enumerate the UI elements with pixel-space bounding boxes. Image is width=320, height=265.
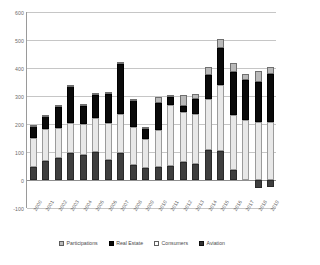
bar-segment-aviation[interactable] xyxy=(167,166,174,180)
bar-segment-real-estate[interactable] xyxy=(92,95,99,118)
bar-segment-real-estate[interactable] xyxy=(255,82,262,121)
bar-segment-aviation[interactable] xyxy=(30,167,37,180)
bar-column[interactable] xyxy=(255,12,262,208)
bar-segment-real-estate[interactable] xyxy=(80,106,87,125)
bar-segment-real-estate[interactable] xyxy=(167,97,174,105)
bar-column[interactable] xyxy=(267,12,274,208)
bar-column[interactable] xyxy=(142,12,149,208)
bar-column[interactable] xyxy=(55,12,62,208)
bar-segment-consumers[interactable] xyxy=(255,122,262,180)
bar-segment-aviation[interactable] xyxy=(42,161,49,180)
bar-segment-consumers[interactable] xyxy=(67,123,74,153)
bar-segment-consumers[interactable] xyxy=(167,105,174,166)
bar-segment-aviation[interactable] xyxy=(80,155,87,180)
bar-segment-real-estate[interactable] xyxy=(67,86,74,123)
bar-segment-aviation[interactable] xyxy=(255,180,262,188)
bar-segment-consumers[interactable] xyxy=(230,115,237,170)
bar-segment-aviation[interactable] xyxy=(155,167,162,180)
bar-segment-participations[interactable] xyxy=(130,99,137,101)
bar-column[interactable] xyxy=(67,12,74,208)
bar-segment-consumers[interactable] xyxy=(30,138,37,167)
bar-segment-participations[interactable] xyxy=(105,92,112,94)
bar-segment-consumers[interactable] xyxy=(205,99,212,150)
bar-segment-participations[interactable] xyxy=(142,127,149,129)
legend-item[interactable]: Participations xyxy=(59,240,98,246)
bar-segment-aviation[interactable] xyxy=(92,152,99,180)
bar-segment-participations[interactable] xyxy=(167,95,174,97)
bar-segment-consumers[interactable] xyxy=(192,114,199,164)
bar-segment-consumers[interactable] xyxy=(242,120,249,180)
bar-segment-participations[interactable] xyxy=(255,71,262,83)
bar-segment-participations[interactable] xyxy=(42,115,49,117)
bar-segment-participations[interactable] xyxy=(117,62,124,64)
bar-segment-participations[interactable] xyxy=(242,74,249,80)
bar-segment-aviation[interactable] xyxy=(192,164,199,180)
bar-segment-participations[interactable] xyxy=(217,39,224,48)
bar-segment-participations[interactable] xyxy=(155,97,162,103)
bar-segment-real-estate[interactable] xyxy=(205,75,212,98)
bar-segment-real-estate[interactable] xyxy=(30,126,37,138)
bar-column[interactable] xyxy=(42,12,49,208)
bar-column[interactable] xyxy=(167,12,174,208)
legend-item[interactable]: Aviation xyxy=(199,240,225,246)
bar-segment-aviation[interactable] xyxy=(67,153,74,180)
legend-item[interactable]: Consumers xyxy=(154,240,188,246)
bar-segment-real-estate[interactable] xyxy=(267,74,274,122)
bar-segment-participations[interactable] xyxy=(192,94,199,99)
bar-segment-consumers[interactable] xyxy=(180,112,187,162)
bar-segment-participations[interactable] xyxy=(55,105,62,107)
bar-segment-participations[interactable] xyxy=(267,67,274,74)
bar-segment-consumers[interactable] xyxy=(217,85,224,151)
bar-column[interactable] xyxy=(242,12,249,208)
bar-segment-real-estate[interactable] xyxy=(192,99,199,114)
bar-column[interactable] xyxy=(92,12,99,208)
bar-segment-participations[interactable] xyxy=(180,95,187,105)
bar-segment-real-estate[interactable] xyxy=(42,116,49,129)
bar-segment-real-estate[interactable] xyxy=(242,80,249,119)
bar-segment-real-estate[interactable] xyxy=(105,94,112,123)
bar-column[interactable] xyxy=(155,12,162,208)
bar-segment-aviation[interactable] xyxy=(130,165,137,180)
bar-segment-aviation[interactable] xyxy=(55,158,62,180)
bar-segment-consumers[interactable] xyxy=(117,114,124,153)
legend-item[interactable]: Real Estate xyxy=(109,240,143,246)
bar-column[interactable] xyxy=(205,12,212,208)
bar-segment-real-estate[interactable] xyxy=(142,128,149,139)
bar-segment-participations[interactable] xyxy=(205,67,212,75)
bar-column[interactable] xyxy=(192,12,199,208)
bar-segment-aviation[interactable] xyxy=(117,153,124,180)
bar-segment-consumers[interactable] xyxy=(130,127,137,165)
bar-segment-participations[interactable] xyxy=(92,93,99,95)
bar-column[interactable] xyxy=(130,12,137,208)
bar-segment-consumers[interactable] xyxy=(267,122,274,180)
bar-segment-consumers[interactable] xyxy=(92,118,99,152)
bar-segment-aviation[interactable] xyxy=(142,168,149,180)
bar-column[interactable] xyxy=(180,12,187,208)
bar-segment-consumers[interactable] xyxy=(105,123,112,160)
bar-segment-consumers[interactable] xyxy=(42,129,49,161)
bar-column[interactable] xyxy=(80,12,87,208)
bar-column[interactable] xyxy=(30,12,37,208)
bar-column[interactable] xyxy=(230,12,237,208)
bar-segment-aviation[interactable] xyxy=(180,162,187,180)
bar-segment-aviation[interactable] xyxy=(217,151,224,180)
bar-segment-consumers[interactable] xyxy=(142,139,149,168)
bar-segment-participations[interactable] xyxy=(230,63,237,73)
bar-segment-participations[interactable] xyxy=(80,104,87,106)
bar-segment-real-estate[interactable] xyxy=(230,72,237,115)
bar-segment-real-estate[interactable] xyxy=(217,48,224,84)
bar-column[interactable] xyxy=(117,12,124,208)
bar-column[interactable] xyxy=(217,12,224,208)
bar-segment-consumers[interactable] xyxy=(80,124,87,155)
bar-segment-real-estate[interactable] xyxy=(130,100,137,127)
bar-segment-aviation[interactable] xyxy=(267,180,274,187)
bar-segment-consumers[interactable] xyxy=(55,128,62,158)
bar-segment-aviation[interactable] xyxy=(105,160,112,180)
bar-segment-real-estate[interactable] xyxy=(180,106,187,113)
bar-segment-consumers[interactable] xyxy=(155,130,162,167)
bar-segment-real-estate[interactable] xyxy=(155,103,162,130)
bar-segment-real-estate[interactable] xyxy=(117,64,124,113)
bar-segment-aviation[interactable] xyxy=(205,150,212,180)
bar-segment-participations[interactable] xyxy=(30,125,37,127)
bar-segment-participations[interactable] xyxy=(67,85,74,87)
